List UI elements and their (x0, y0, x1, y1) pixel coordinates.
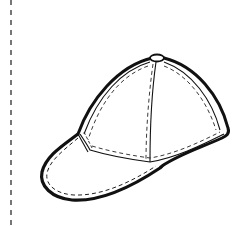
cap-button (150, 55, 164, 62)
coloring-page: baseball cap (0, 0, 250, 226)
baseball-cap-illustration (0, 0, 250, 226)
